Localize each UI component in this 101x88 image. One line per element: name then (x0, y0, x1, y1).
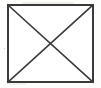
figure-canvas (0, 0, 101, 88)
crossed-box-icon (0, 0, 101, 88)
